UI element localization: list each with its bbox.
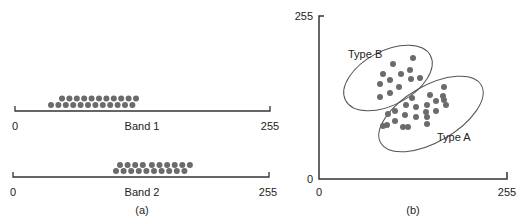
data-point [74, 96, 80, 102]
data-point [126, 96, 132, 102]
data-point [133, 96, 139, 102]
data-point [70, 102, 76, 108]
data-point [181, 168, 187, 174]
data-point [408, 76, 414, 82]
data-point [115, 102, 121, 108]
data-point [390, 61, 396, 67]
data-point [63, 102, 69, 108]
data-point [85, 102, 91, 108]
data-point [89, 96, 95, 102]
data-point [409, 95, 415, 101]
data-point [172, 162, 178, 168]
data-point [400, 124, 406, 130]
data-point [128, 168, 134, 174]
data-point [113, 168, 119, 174]
data-point [55, 102, 61, 108]
data-point [377, 81, 383, 87]
data-point [413, 114, 419, 120]
data-point [92, 102, 98, 108]
band2-label: Band 2 [125, 186, 160, 198]
data-point [118, 96, 124, 102]
panel-b-caption: (b) [406, 204, 419, 216]
data-point [151, 168, 157, 174]
panel-a-caption: (a) [135, 204, 148, 216]
data-point [78, 102, 84, 108]
data-point [122, 102, 128, 108]
data-point [117, 162, 123, 168]
data-point [174, 168, 180, 174]
data-point [164, 162, 170, 168]
type-a-label: Type A [437, 131, 471, 143]
data-point [441, 84, 447, 90]
data-point [377, 94, 383, 100]
data-point [59, 96, 65, 102]
data-point [149, 162, 155, 168]
data-point [140, 162, 146, 168]
data-point [443, 102, 449, 108]
band1-min-label: 0 [12, 120, 18, 132]
data-point [66, 96, 72, 102]
data-point [423, 109, 429, 115]
data-point [402, 112, 408, 118]
data-point [398, 71, 404, 77]
type-b-dots [377, 55, 423, 100]
data-point [380, 71, 386, 77]
data-point [132, 162, 138, 168]
data-point [129, 102, 135, 108]
data-point [159, 168, 165, 174]
data-point [136, 168, 142, 174]
type-b-label: Type B [348, 48, 382, 60]
data-point [392, 118, 398, 124]
data-point [387, 90, 393, 96]
data-point [392, 108, 398, 114]
data-point [107, 102, 113, 108]
data-point [433, 98, 439, 104]
data-point [387, 77, 393, 83]
band2-dots [113, 162, 193, 174]
y-min-label: 0 [307, 173, 313, 185]
band2-max-label: 255 [259, 186, 277, 198]
data-point [380, 123, 386, 129]
data-point [125, 162, 131, 168]
data-point [48, 102, 54, 108]
data-point [433, 108, 439, 114]
data-point [166, 168, 172, 174]
data-point [424, 114, 430, 120]
data-point [413, 104, 419, 110]
band1-plot: 0 Band 1 255 [12, 96, 279, 133]
x-min-label: 0 [316, 186, 322, 198]
data-point [424, 102, 430, 108]
data-point [417, 75, 423, 81]
data-point [385, 111, 391, 117]
data-point [96, 96, 102, 102]
data-point [121, 168, 127, 174]
x-max-label: 255 [498, 186, 516, 198]
data-point [100, 102, 106, 108]
y-max-label: 255 [295, 10, 313, 22]
figure: 0 Band 1 255 0 Band 2 255 (a) 255 0 0 25… [0, 0, 525, 223]
data-point [81, 96, 87, 102]
feature-space-plot: 255 0 0 255 Type B Type A [295, 10, 517, 198]
band1-max-label: 255 [261, 120, 279, 132]
data-point [427, 92, 433, 98]
band2-plot: 0 Band 2 255 [10, 162, 277, 198]
data-point [424, 121, 430, 127]
data-point [407, 67, 413, 73]
data-point [410, 55, 416, 61]
data-point [157, 162, 163, 168]
data-point [187, 162, 193, 168]
band1-label: Band 1 [125, 120, 160, 132]
data-point [111, 96, 117, 102]
data-point [179, 162, 185, 168]
band1-dots [48, 96, 139, 109]
data-point [143, 168, 149, 174]
data-point [403, 102, 409, 108]
band2-min-label: 0 [10, 186, 16, 198]
data-point [103, 96, 109, 102]
data-point [396, 84, 402, 90]
